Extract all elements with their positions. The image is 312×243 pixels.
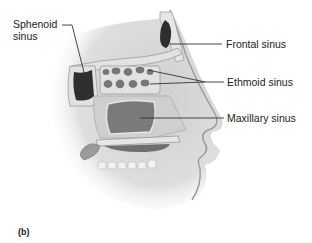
label-frontal-sinus: Frontal sinus bbox=[226, 38, 286, 50]
label-maxillary-sinus: Maxillary sinus bbox=[227, 112, 296, 124]
sinus-diagram: Sphenoid sinus Frontal sinus Ethmoid sin… bbox=[0, 0, 312, 243]
sphenoid-sinus-region bbox=[73, 70, 94, 101]
label-sphenoid-line1: Sphenoid bbox=[13, 18, 57, 30]
panel-label: (b) bbox=[18, 227, 30, 237]
label-sphenoid-line2: sinus bbox=[13, 30, 57, 42]
maxillary-sinus-region bbox=[106, 100, 155, 134]
label-sphenoid-sinus: Sphenoid sinus bbox=[13, 18, 57, 42]
label-ethmoid-sinus: Ethmoid sinus bbox=[227, 76, 293, 88]
